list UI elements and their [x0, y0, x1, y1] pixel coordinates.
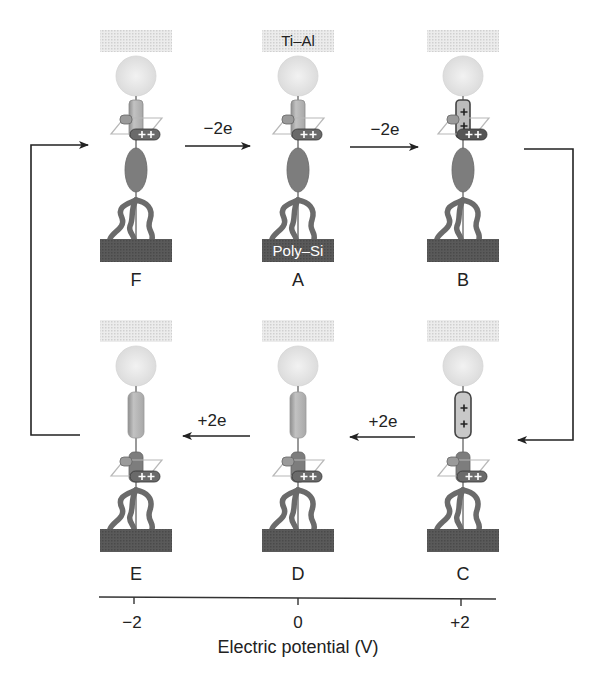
state-label-c: C [457, 564, 470, 584]
stopper-sphere [443, 56, 483, 96]
ellipse-unit [452, 148, 474, 192]
potential-axis: −2 0 +2 Electric potential (V) [99, 597, 496, 657]
bottom-electrode-label: Poly–Si [273, 242, 324, 259]
stopper-sphere [278, 56, 318, 96]
transition-arrow-d-to-e: +2e [183, 411, 250, 436]
anchor-chain [298, 200, 314, 239]
stopper-sphere [278, 346, 318, 386]
stopper-sphere [443, 346, 483, 386]
ring-bead-left [120, 457, 132, 466]
ellipse-unit [125, 148, 147, 192]
bottom-electrode [427, 239, 499, 262]
state-label-a: A [292, 270, 304, 290]
arrow-label-f-to-a: −2e [204, 119, 233, 138]
rod-unit [290, 392, 306, 438]
top-electrode [427, 320, 499, 342]
ring-bead-left [447, 457, 459, 466]
molecule-state-f [100, 30, 172, 262]
anchor-chain [463, 490, 479, 529]
molecule-state-a [262, 30, 334, 262]
anchor-chain [298, 490, 314, 529]
bottom-electrode [427, 529, 499, 552]
top-electrode [100, 30, 172, 52]
state-label-b: B [457, 270, 469, 290]
top-electrode [427, 30, 499, 52]
tick-label-minus-2: −2 [122, 613, 141, 632]
bottom-electrode [262, 529, 334, 552]
transition-arrow-f-to-a: −2e [185, 119, 250, 146]
molecule-states [100, 30, 499, 552]
arrow-label-d-to-e: +2e [198, 411, 227, 430]
ring-bead-left [282, 457, 294, 466]
arrow-label-a-to-b: −2e [371, 120, 400, 139]
ring-bead-left [282, 115, 294, 124]
stopper-sphere [116, 56, 156, 96]
top-electrode [100, 320, 172, 342]
molecule-state-c [427, 320, 499, 552]
bottom-electrode [100, 529, 172, 552]
state-label-d: D [292, 564, 305, 584]
bracket-arrow-b-to-c [518, 149, 573, 440]
state-label-e: E [130, 564, 142, 584]
axis-title: Electric potential (V) [217, 637, 378, 657]
molecule-state-e [100, 320, 172, 552]
anchor-chain [463, 200, 479, 239]
top-electrode [262, 320, 334, 342]
rod-unit [455, 392, 471, 438]
molecule-state-d [262, 320, 334, 552]
ring-bead-left [120, 115, 132, 124]
anchor-chain [136, 200, 152, 239]
tick-label-0: 0 [293, 613, 302, 632]
top-electrode-label: Ti–Al [281, 32, 315, 49]
state-label-f: F [131, 270, 142, 290]
bracket-arrow-e-to-f [31, 145, 88, 435]
ellipse-unit [287, 148, 309, 192]
transition-arrow-c-to-d: +2e [350, 412, 415, 437]
ring-bead-left [447, 115, 459, 124]
stopper-sphere [116, 346, 156, 386]
molecule-state-b [427, 30, 499, 262]
tick-label-plus-2: +2 [450, 613, 469, 632]
rod-unit [128, 392, 144, 438]
arrow-label-c-to-d: +2e [369, 412, 398, 431]
transition-arrow-a-to-b: −2e [350, 120, 418, 147]
molecular-switch-diagram: −2e −2e +2e +2e F A B E D C Ti–Al Poly–S… [0, 0, 596, 676]
bottom-electrode [100, 239, 172, 262]
anchor-chain [136, 490, 152, 529]
